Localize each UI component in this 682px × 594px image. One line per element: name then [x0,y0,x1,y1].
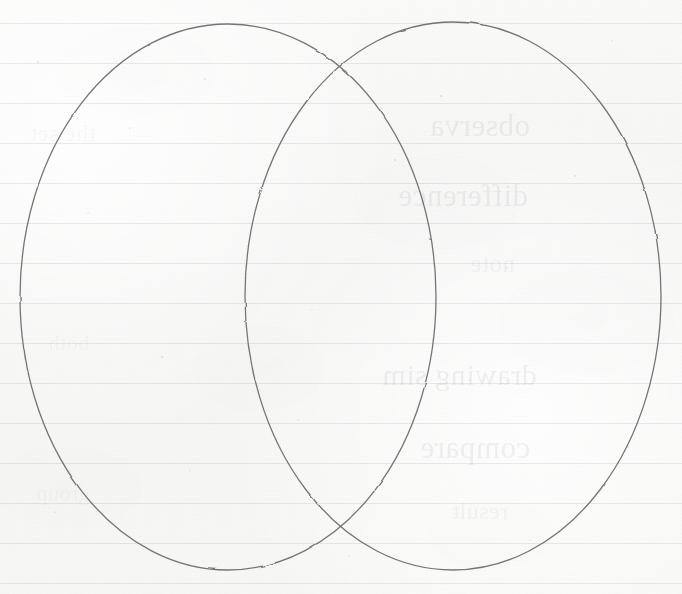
venn-diagram [0,0,682,594]
left-only-region [40,77,260,517]
overlap-region [271,86,411,506]
notebook-page: observa difference note drawing sim comp… [0,0,682,594]
right-only-region [420,76,640,516]
